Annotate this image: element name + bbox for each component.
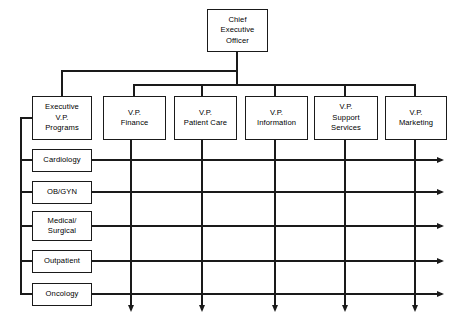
node-medical-surgical[interactable]: Medical/ Surgical — [32, 211, 92, 241]
row-arrow-outpatient — [437, 258, 444, 264]
row-line-medical-surgical — [92, 225, 442, 227]
row-arrow-oncology — [437, 291, 444, 297]
column-arrow-support-services — [342, 305, 348, 312]
node-label: V.P. Patient Care — [184, 108, 227, 129]
node-label: V.P. Finance — [121, 108, 149, 129]
column-line-finance — [130, 140, 132, 307]
node-executive-vp-programs[interactable]: Executive V.P. Programs — [32, 96, 92, 140]
row-arrow-obgyn — [437, 189, 444, 195]
node-label: Oncology — [46, 289, 79, 300]
connector-drop-executive-vp — [61, 70, 63, 96]
connector-drop-vp-information — [274, 84, 276, 96]
row-arrow-medical-surgical — [437, 223, 444, 229]
column-line-patient-care — [201, 140, 203, 307]
column-line-marketing — [414, 140, 416, 307]
node-label: OB/GYN — [47, 187, 77, 198]
org-chart-canvas: Chief Executive Officer Executive V.P. P… — [0, 0, 454, 325]
node-cardiology[interactable]: Cardiology — [32, 149, 92, 172]
column-arrow-marketing — [412, 305, 418, 312]
column-arrow-information — [272, 305, 278, 312]
node-chief-executive-officer[interactable]: Chief Executive Officer — [207, 9, 268, 52]
row-arrow-cardiology — [437, 157, 444, 163]
connector-drop-vp-marketing — [414, 84, 416, 96]
column-arrow-finance — [128, 305, 134, 312]
node-label: Outpatient — [44, 256, 80, 267]
row-line-oncology — [92, 293, 442, 295]
connector-left-rail — [20, 117, 22, 295]
connector-upper-bus — [61, 70, 237, 72]
node-vp-support-services[interactable]: V.P. Support Services — [314, 96, 378, 140]
node-oncology[interactable]: Oncology — [32, 283, 92, 306]
node-label: Chief Executive Officer — [221, 15, 255, 47]
node-label: Cardiology — [43, 155, 80, 166]
row-line-obgyn — [92, 191, 442, 193]
row-line-cardiology — [92, 159, 442, 161]
node-label: V.P. Support Services — [331, 102, 361, 134]
node-label: Medical/ Surgical — [47, 216, 76, 237]
node-vp-information[interactable]: V.P. Information — [245, 96, 308, 140]
node-outpatient[interactable]: Outpatient — [32, 250, 92, 273]
connector-drop-vp-patient-care — [201, 84, 203, 96]
node-label: V.P. Information — [257, 108, 296, 129]
column-line-information — [274, 140, 276, 307]
node-label: V.P. Marketing — [399, 108, 433, 129]
connector-drop-vp-finance — [133, 84, 135, 96]
node-vp-finance[interactable]: V.P. Finance — [103, 96, 166, 140]
row-line-outpatient — [92, 260, 442, 262]
connector-drop-vp-support-services — [344, 84, 346, 96]
column-line-support-services — [344, 140, 346, 307]
node-vp-marketing[interactable]: V.P. Marketing — [385, 96, 447, 140]
connector-ceo-stem — [236, 52, 238, 86]
node-obgyn[interactable]: OB/GYN — [32, 181, 92, 204]
node-label: Executive V.P. Programs — [45, 102, 79, 134]
column-arrow-patient-care — [199, 305, 205, 312]
node-vp-patient-care[interactable]: V.P. Patient Care — [174, 96, 237, 140]
